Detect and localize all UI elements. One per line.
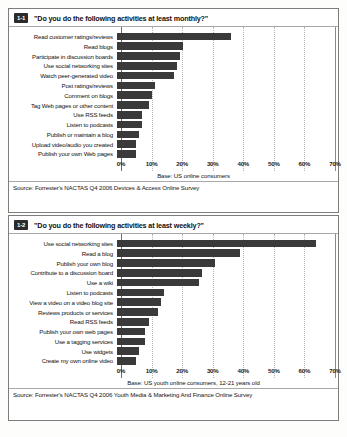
bar-category-label: Use social networking sites: [9, 239, 117, 248]
bar-row: Read customer ratings/reviews: [9, 32, 338, 41]
bar-row: Use social networking sites: [9, 239, 338, 248]
bar-track: [117, 71, 338, 80]
figure-monthly-xaxis: 0%10%20%30%40%50%60%70%: [9, 160, 338, 171]
bar-category-label: Tag Web pages or other content: [9, 101, 117, 110]
bar-track: [117, 347, 338, 356]
bar-category-label: Read customer ratings/reviews: [9, 32, 117, 41]
bar-row: Use a wiki: [9, 278, 338, 287]
figure-page: 1-1 "Do you do the following activities …: [0, 0, 347, 437]
bar-value: [117, 111, 142, 119]
bar-value: [117, 357, 136, 365]
bar-row: Contribute to a discussion board: [9, 268, 338, 277]
bar-track: [117, 288, 338, 297]
bar-category-label: View a video on a video blog site: [9, 298, 117, 307]
bar-track: [117, 100, 338, 109]
bar-track: [117, 249, 338, 258]
axis-tick-label: 20%: [176, 367, 188, 374]
figure-weekly-plot: Use social networking sitesRead a blogPu…: [9, 234, 338, 378]
bar-value: [117, 240, 316, 248]
bar-category-label: Post ratings/reviews: [9, 81, 117, 90]
bar-row: Upload video/audio you created: [9, 140, 338, 149]
bar-category-label: Use widgets: [9, 347, 117, 356]
axis-tick-label: 0%: [117, 367, 125, 374]
bar-row: Use RSS feeds: [9, 110, 338, 119]
bar-category-label: Participate in discussion boards: [9, 52, 117, 61]
bar-track: [117, 239, 338, 248]
axis-tick-label: 40%: [237, 367, 249, 374]
bar-category-label: Reviews products or services: [9, 308, 117, 317]
bar-category-label: Listen to podcasts: [9, 120, 117, 129]
bar-row: Read a blog: [9, 249, 338, 258]
figure-weekly-header: 1-2 "Do you do the following activities …: [9, 216, 338, 234]
bar-track: [117, 307, 338, 316]
bar-row: Post ratings/reviews: [9, 81, 338, 90]
bar-value: [117, 338, 145, 346]
bar-track: [117, 52, 338, 61]
bar-value: [117, 259, 215, 267]
axis-tick-label: 40%: [237, 160, 249, 167]
bar-track: [117, 317, 338, 326]
figure-weekly-base-note: Base: US youth online consumers, 12-21 y…: [49, 378, 338, 388]
figure-monthly-plot: Read customer ratings/reviewsRead blogsP…: [9, 27, 338, 171]
bar-row: Watch peer-generated video: [9, 71, 338, 80]
bar-row: Listen to podcasts: [9, 288, 338, 297]
bar-row: Read blogs: [9, 42, 338, 51]
bar-category-label: Contribute to a discussion board: [9, 268, 117, 277]
bar-value: [117, 121, 142, 129]
bar-track: [117, 337, 338, 346]
figure-weekly: 1-2 "Do you do the following activities …: [8, 215, 339, 421]
bar-track: [117, 327, 338, 336]
bar-track: [117, 259, 338, 268]
bar-value: [117, 249, 240, 257]
bar-value: [117, 150, 136, 158]
figure-monthly-title: "Do you do the following activities at l…: [34, 14, 208, 23]
bar-track: [117, 81, 338, 90]
bar-row: Publish your own web pages: [9, 327, 338, 336]
bar-row: Reviews products or services: [9, 307, 338, 316]
bar-value: [117, 318, 149, 326]
bar-category-label: Use social networking sites: [9, 61, 117, 70]
bar-category-label: Publish your own blog: [9, 259, 117, 268]
bar-row: Use social networking sites: [9, 61, 338, 70]
bar-row: Comment on blogs: [9, 91, 338, 100]
bar-value: [117, 279, 199, 287]
figure-monthly-header: 1-1 "Do you do the following activities …: [9, 9, 338, 27]
bar-track: [117, 278, 338, 287]
bar-row: Use widgets: [9, 347, 338, 356]
bar-value: [117, 62, 177, 70]
bar-track: [117, 61, 338, 70]
bar-value: [117, 289, 164, 297]
bar-value: [117, 298, 161, 306]
bar-category-label: Publish your own Web pages: [9, 149, 117, 158]
axis-tick-label: 30%: [207, 367, 219, 374]
bar-category-label: Read blogs: [9, 42, 117, 51]
axis-tick-label: 0%: [117, 160, 125, 167]
bar-category-label: Comment on blogs: [9, 91, 117, 100]
bar-value: [117, 308, 158, 316]
bar-row: Listen to podcasts: [9, 120, 338, 129]
bar-category-label: Create my own online video: [9, 356, 117, 365]
axis-tick-label: 50%: [268, 160, 280, 167]
bar-track: [117, 42, 338, 51]
bar-category-label: Upload video/audio you created: [9, 140, 117, 149]
bar-row: Tag Web pages or other content: [9, 100, 338, 109]
bar-track: [117, 91, 338, 100]
bar-track: [117, 130, 338, 139]
figure-weekly-title: "Do you do the following activities at l…: [34, 221, 204, 230]
bar-track: [117, 298, 338, 307]
bar-track: [117, 149, 338, 158]
bar-value: [117, 269, 202, 277]
bar-category-label: Read a blog: [9, 249, 117, 258]
bar-row: Participate in discussion boards: [9, 52, 338, 61]
figure-monthly-bars: Read customer ratings/reviewsRead blogsP…: [9, 32, 338, 158]
bar-row: Publish or maintain a blog: [9, 130, 338, 139]
bar-category-label: Use a wiki: [9, 278, 117, 287]
axis-tick-label: 60%: [299, 160, 311, 167]
figure-weekly-source-note: Source: Forrester's NACTAS Q4 2006 Youth…: [9, 388, 338, 400]
bar-track: [117, 110, 338, 119]
bar-category-label: Watch peer-generated video: [9, 71, 117, 80]
bar-track: [117, 268, 338, 277]
bar-value: [117, 347, 139, 355]
axis-tick-label: 10%: [146, 367, 158, 374]
bar-row: Read RSS feeds: [9, 317, 338, 326]
